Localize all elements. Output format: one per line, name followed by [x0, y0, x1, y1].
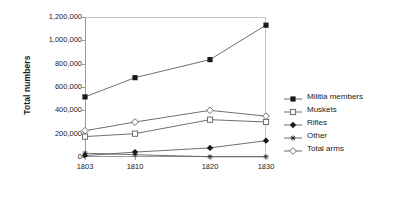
legend-marker-icon	[283, 104, 303, 116]
legend-label: Rifles	[307, 117, 327, 129]
x-tick-mark	[266, 157, 267, 160]
legend-item[interactable]: Muskets	[283, 103, 393, 116]
data-point	[290, 135, 295, 140]
x-tick-label: 1810	[115, 162, 155, 171]
legend-marker-icon	[283, 130, 303, 142]
x-tick-label: 1820	[190, 162, 230, 171]
x-tick-mark	[85, 157, 86, 160]
x-tick-mark	[135, 157, 136, 160]
legend-marker-icon	[283, 117, 303, 129]
legend-label: Other	[307, 130, 327, 142]
legend-item[interactable]: Other	[283, 129, 393, 142]
x-tick-label: 1803	[65, 162, 105, 171]
data-point	[290, 147, 297, 154]
chart-legend: Militia membersMusketsRiflesOtherTotal a…	[283, 90, 393, 155]
data-point	[290, 121, 296, 127]
legend-item[interactable]: Total arms	[283, 142, 393, 155]
legend-item[interactable]: Rifles	[283, 116, 393, 129]
legend-label: Total arms	[307, 143, 344, 155]
legend-marker-icon	[283, 143, 303, 155]
legend-label: Militia members	[307, 91, 363, 103]
chart-figure: Total numbers 0200,000400,000600,000800,…	[0, 0, 393, 200]
data-point	[290, 109, 295, 114]
legend-item[interactable]: Militia members	[283, 90, 393, 103]
data-point	[290, 96, 295, 101]
x-tick-label: 1830	[246, 162, 286, 171]
x-tick-mark	[210, 157, 211, 160]
legend-label: Muskets	[307, 104, 337, 116]
legend-marker-icon	[283, 91, 303, 103]
